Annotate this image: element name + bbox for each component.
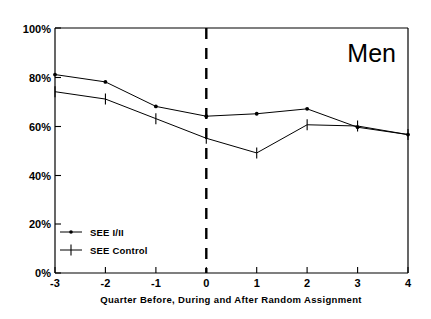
legend: SEE I/II SEE Control — [60, 227, 148, 256]
legend-dot-icon — [69, 230, 73, 234]
y-tick-labels: 0% 20% 40% 60% 80% 100% — [23, 23, 51, 280]
x-tick-label-3: 3 — [355, 277, 361, 289]
y-tick-label-100: 100% — [23, 23, 51, 35]
legend-item-see-control[interactable]: SEE Control — [60, 245, 148, 256]
data-point-marker — [154, 105, 158, 109]
y-tick-label-80: 80% — [29, 72, 51, 84]
x-tick-labels: -3 -2 -1 0 1 2 3 4 — [50, 277, 412, 289]
y-tick-label-20: 20% — [29, 218, 51, 230]
data-point-marker — [204, 114, 208, 118]
x-tick-label--1: -1 — [151, 277, 161, 289]
legend-label-see-i-ii: SEE I/II — [90, 227, 124, 238]
legend-item-see-i-ii[interactable]: SEE I/II — [60, 227, 124, 238]
series-line — [55, 92, 408, 153]
y-tick-label-40: 40% — [29, 170, 51, 182]
series-layer — [53, 73, 410, 159]
x-tick-label-0: 0 — [203, 277, 209, 289]
panel-title: Men — [347, 39, 396, 67]
x-tick-label--3: -3 — [50, 277, 60, 289]
chart-container: 0% 20% 40% 60% 80% 100% -3 -2 -1 0 1 2 3 — [0, 0, 431, 319]
y-tick-marks — [55, 28, 61, 273]
legend-label-see-control: SEE Control — [90, 245, 148, 256]
x-tick-label-4: 4 — [405, 277, 412, 289]
series-see-i-ii — [53, 73, 410, 137]
line-chart: 0% 20% 40% 60% 80% 100% -3 -2 -1 0 1 2 3 — [0, 0, 431, 319]
data-point-marker — [305, 107, 309, 111]
x-tick-label-1: 1 — [254, 277, 260, 289]
y-tick-label-0: 0% — [35, 267, 51, 279]
x-tick-label-2: 2 — [304, 277, 310, 289]
data-point-marker — [53, 73, 57, 77]
x-tick-marks — [55, 267, 408, 273]
x-axis-title: Quarter Before, During and After Random … — [100, 294, 362, 305]
data-point-marker — [255, 112, 259, 116]
data-point-marker — [104, 80, 108, 84]
y-tick-label-60: 60% — [29, 121, 51, 133]
series-see-control — [55, 86, 408, 158]
x-tick-label--2: -2 — [101, 277, 111, 289]
